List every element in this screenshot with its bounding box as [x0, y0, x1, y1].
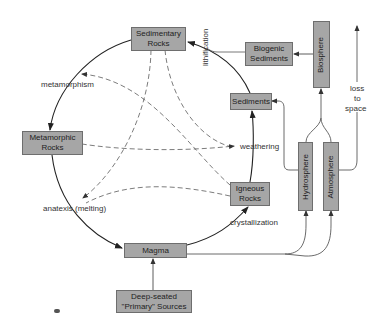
- hydro-to-sediments-arrow: [272, 101, 298, 170]
- biogenic-sediments-node: BiogenicSediments: [245, 42, 293, 66]
- node-label: Hydrosphere: [301, 154, 311, 200]
- anatexis-label: anatexis (melting): [43, 204, 106, 213]
- atmo-to-biosphere-line: [321, 118, 331, 142]
- hydrosphere-node: Hydrosphere: [298, 142, 313, 211]
- deep-sources-node: Deep-seated"Primary" Sources: [116, 290, 192, 313]
- node-label: Biosphere: [317, 36, 327, 72]
- node-label: Magma: [142, 246, 169, 256]
- igneous-to-anatexis-dashed: [86, 187, 230, 203]
- metamorphic-to-weathering-dashed: [82, 144, 234, 150]
- lithification-arrow: [188, 42, 250, 93]
- biosphere-node: Biosphere: [313, 21, 330, 88]
- node-label: Igneous: [236, 184, 264, 194]
- magma-node: Magma: [124, 243, 187, 258]
- crystallization-label: crystallization: [230, 218, 278, 227]
- igneous-to-metamorphism-dashed: [82, 74, 230, 185]
- node-label: Rocks: [29, 143, 75, 153]
- node-label: Deep-seated: [122, 292, 187, 302]
- node-label: Metamorphic: [29, 133, 75, 143]
- to-label: to: [354, 94, 361, 103]
- scan-smudge: [54, 309, 60, 313]
- node-label: Rocks: [236, 194, 264, 204]
- sedimentary-to-anatexis-dashed: [83, 50, 151, 198]
- loss-label: loss: [350, 84, 364, 93]
- hydro-to-biosphere-line: [306, 89, 321, 142]
- node-label: Sediments: [232, 97, 270, 107]
- metamorphism-label: metamorphism: [41, 80, 94, 89]
- node-label: Atmosphere: [326, 155, 336, 198]
- magma-to-atmo-arrow: [285, 211, 331, 256]
- node-label: Biogenic: [250, 44, 288, 54]
- metamorphic-rocks-node: MetamorphicRocks: [22, 131, 83, 155]
- node-label: Rocks: [136, 39, 181, 49]
- atmo-to-space-line: [339, 112, 357, 170]
- sedimentary-to-weathering-dashed: [165, 50, 232, 147]
- node-label: Sedimentary: [136, 29, 181, 39]
- node-label: "Primary" Sources: [122, 302, 187, 312]
- weathering-label: weathering: [240, 142, 279, 151]
- space-label: space: [345, 104, 366, 113]
- igneous-rocks-node: IgneousRocks: [230, 182, 270, 206]
- node-label: Sediments: [250, 54, 288, 64]
- sediments-node: Sediments: [230, 93, 272, 110]
- anatexis-arrow: [52, 155, 122, 248]
- atmosphere-node: Atmosphere: [323, 142, 339, 211]
- sedimentary-rocks-node: SedimentaryRocks: [131, 27, 186, 51]
- lithification-label: lithification: [201, 29, 210, 66]
